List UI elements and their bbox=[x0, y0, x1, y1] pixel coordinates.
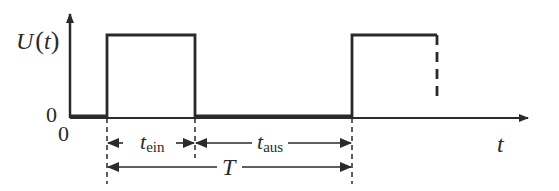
period-label: T bbox=[222, 154, 237, 180]
on-time-label: tein bbox=[140, 129, 165, 155]
y-zero-label: 0 bbox=[46, 102, 57, 127]
x-origin-label: 0 bbox=[58, 121, 69, 146]
y-axis-label: U(t) bbox=[16, 26, 59, 55]
x-axis-label: t bbox=[497, 131, 505, 157]
pwm-diagram: U(t) 0 0 t tein taus T bbox=[0, 0, 559, 191]
off-time-label: taus bbox=[257, 129, 283, 155]
signal-waveform bbox=[70, 35, 437, 116]
